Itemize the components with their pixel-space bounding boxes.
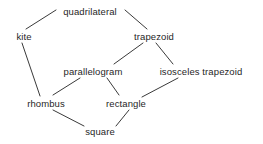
edge-quadrilateral-to-kite [26,10,56,29]
node-trapezoid: trapezoid [134,31,174,42]
edge-kite-to-rhombus [22,43,40,96]
edge-isosceles_trapezoid-to-rectangle [142,78,178,97]
edge-rectangle-to-square [116,110,129,126]
node-quadrilateral: quadrilateral [63,6,117,17]
quadrilateral-hierarchy-diagram: quadrilateralkitetrapezoidparallelogrami… [0,0,263,144]
node-rectangle: rectangle [106,98,146,109]
node-kite: kite [16,31,31,42]
edge-trapezoid-to-parallelogram [114,43,143,64]
node-isosceles_trapezoid: isosceles trapezoid [160,66,243,77]
node-rhombus: rhombus [27,98,65,109]
node-parallelogram: parallelogram [64,66,123,77]
edge-quadrilateral-to-trapezoid [125,10,147,29]
edge-rhombus-to-square [53,110,84,126]
edge-parallelogram-to-rectangle [107,78,119,95]
edge-parallelogram-to-rhombus [53,78,80,95]
edge-trapezoid-to-isosceles_trapezoid [156,43,173,64]
node-square: square [85,126,115,137]
